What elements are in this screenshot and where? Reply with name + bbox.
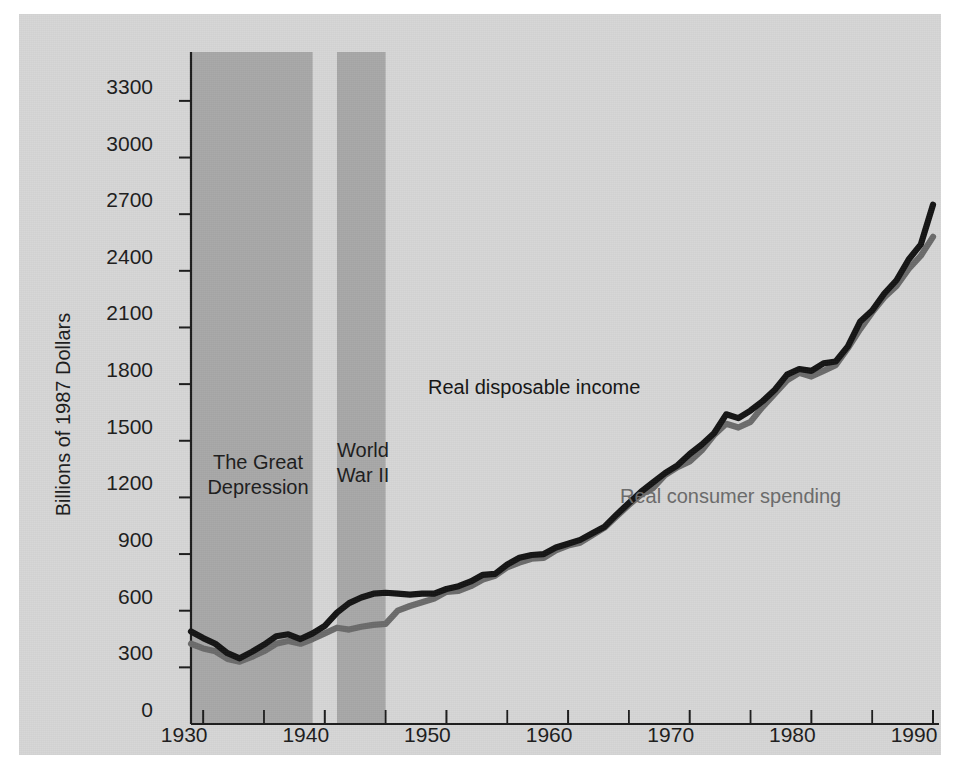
chart-ticks: [179, 101, 933, 724]
y-tick-label: 3000: [63, 132, 153, 156]
y-tick-label: 900: [63, 528, 153, 552]
y-tick-label: 1800: [63, 358, 153, 382]
y-tick-label: 3300: [63, 75, 153, 99]
annotation-great-depression: The Great Depression: [200, 450, 316, 500]
shaded-regions: [191, 52, 386, 724]
y-tick-label: 300: [63, 641, 153, 665]
chart-figure: 0300600900120015001800210024002700300033…: [19, 14, 941, 755]
series-label-real-disposable-income: Real disposable income: [428, 376, 640, 399]
x-tick-label: 1980: [747, 723, 837, 747]
x-tick-label: 1940: [261, 723, 351, 747]
x-tick-label: 1960: [504, 723, 594, 747]
x-tick-label: 1930: [139, 723, 229, 747]
y-tick-label: 2400: [63, 245, 153, 269]
x-tick-label: 1970: [626, 723, 716, 747]
x-tick-label: 1990: [869, 723, 959, 747]
y-tick-label: 600: [63, 585, 153, 609]
shaded-region-great-depression: [191, 52, 313, 724]
x-tick-label: 1950: [382, 723, 472, 747]
y-tick-label: 0: [63, 698, 153, 722]
series-label-real-consumer-spending: Real consumer spending: [620, 485, 841, 508]
y-tick-label: 2700: [63, 188, 153, 212]
y-axis-title: Billions of 1987 Dollars: [52, 285, 75, 545]
y-tick-label: 1500: [63, 415, 153, 439]
annotation-world-war-ii: World War II: [323, 438, 403, 488]
y-tick-label: 2100: [63, 301, 153, 325]
series-line-real-disposable-income: [191, 205, 933, 659]
shaded-region-world-war-ii: [337, 52, 386, 724]
y-tick-label: 1200: [63, 471, 153, 495]
